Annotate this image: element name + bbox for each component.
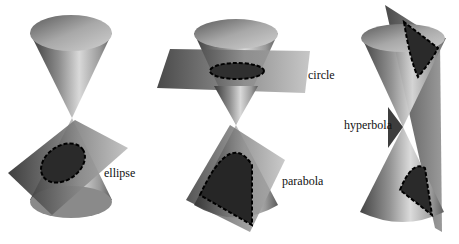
label-ellipse: ellipse [104, 166, 135, 181]
circle-parabola-panel [157, 19, 310, 232]
label-hyperbola: hyperbola [344, 118, 392, 133]
upper-cone-cap [30, 15, 112, 51]
label-circle: circle [308, 68, 335, 83]
ellipse-panel [8, 15, 128, 218]
upper-cone-cap [194, 19, 278, 49]
upper-cone-tip [214, 86, 258, 125]
circle-curve [210, 63, 264, 79]
label-parabola: parabola [282, 174, 323, 189]
